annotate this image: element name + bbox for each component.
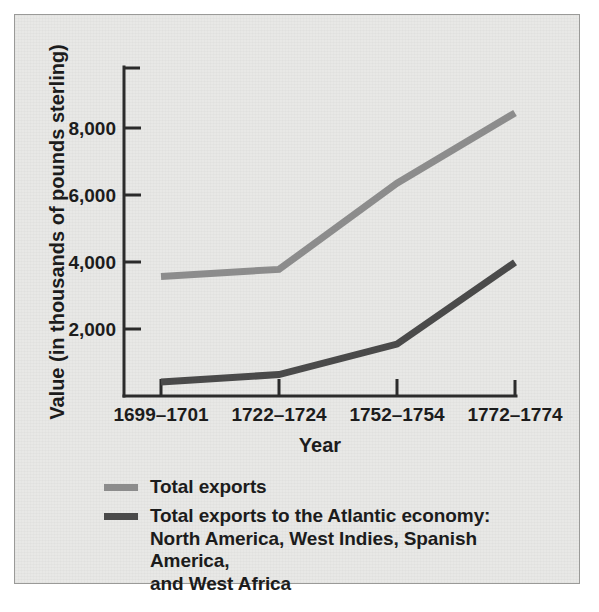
x-tick-label: 1752–1754 — [349, 404, 445, 425]
x-tick-group: 1699–17011722–17241752–17541772–1774 — [113, 379, 563, 425]
series-line-atlantic-economy — [161, 262, 515, 382]
series-line-total-exports — [161, 113, 515, 276]
chart-legend: Total exports Total exports to the Atlan… — [104, 476, 544, 602]
legend-swatch-total-exports — [104, 484, 138, 491]
y-axis-title: Value (in thousands of pounds sterling) — [46, 44, 68, 420]
legend-label-atlantic-economy: Total exports to the Atlantic economy:No… — [150, 505, 544, 595]
y-tick-label: 2,000 — [68, 319, 116, 340]
axes-group — [124, 67, 516, 396]
figure-root: Value (in thousands of pounds sterling) … — [0, 0, 599, 612]
y-tick-label: 6,000 — [68, 185, 116, 206]
legend-item-atlantic-economy: Total exports to the Atlantic economy:No… — [104, 505, 544, 595]
x-tick-label: 1699–1701 — [113, 404, 209, 425]
legend-item-total-exports: Total exports — [104, 476, 544, 498]
x-axis-title: Year — [299, 434, 341, 456]
x-tick-label: 1722–1724 — [231, 404, 327, 425]
y-tick-group: 2,0004,0006,0008,000 — [68, 118, 141, 340]
legend-label-total-exports: Total exports — [150, 476, 267, 498]
y-tick-label: 8,000 — [68, 118, 116, 139]
y-tick-label: 4,000 — [68, 252, 116, 273]
series-group — [161, 113, 515, 382]
legend-swatch-atlantic-economy — [104, 513, 138, 520]
x-tick-label: 1772–1774 — [467, 404, 563, 425]
